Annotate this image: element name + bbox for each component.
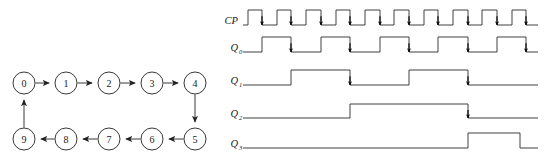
signal-label-Q3: Q [230, 138, 238, 149]
waveform-trace-CP [243, 10, 538, 25]
timing-diagram-canvas: CPQ0Q1Q2Q3 [215, 0, 544, 161]
waveform-row-Q0: Q0 [230, 37, 538, 55]
signal-label-Q0: Q [230, 42, 238, 53]
state-node-label: 7 [107, 134, 112, 145]
signal-subscript-Q1: 1 [239, 81, 242, 88]
state-node-3[interactable]: 3 [141, 72, 163, 94]
state-node-4[interactable]: 4 [184, 72, 206, 94]
waveform-row-Q1: Q1 [230, 70, 538, 88]
state-node-label: 2 [107, 78, 112, 89]
state-node-label: 6 [150, 134, 155, 145]
signal-label-CP: CP [225, 15, 239, 26]
state-node-label: 4 [193, 78, 198, 89]
signal-subscript-Q2: 2 [239, 114, 243, 121]
figure-root: 0123456789 CPQ0Q1Q2Q3 [0, 0, 544, 161]
signal-subscript-Q3: 3 [238, 144, 243, 151]
waveform-trace-Q3 [243, 133, 538, 148]
state-transition-diagram: 0123456789 [0, 0, 220, 161]
state-node-label: 5 [193, 134, 198, 145]
state-node-0[interactable]: 0 [13, 72, 35, 94]
signal-label-Q2: Q [230, 108, 238, 119]
waveform-trace-Q0 [243, 37, 538, 52]
state-node-label: 0 [22, 78, 27, 89]
waveform-row-Q3: Q3 [230, 133, 538, 151]
waveform-row-Q2: Q2 [230, 104, 538, 121]
state-node-label: 9 [22, 134, 27, 145]
state-diagram-canvas: 0123456789 [0, 0, 220, 161]
state-node-9[interactable]: 9 [13, 128, 35, 150]
signal-label-Q1: Q [230, 75, 238, 86]
signal-subscript-Q0: 0 [239, 48, 243, 55]
state-node-label: 8 [64, 134, 69, 145]
state-node-8[interactable]: 8 [55, 128, 77, 150]
waveform-trace-Q1 [243, 70, 538, 85]
state-node-1[interactable]: 1 [55, 72, 77, 94]
state-node-6[interactable]: 6 [141, 128, 163, 150]
state-node-label: 3 [150, 78, 155, 89]
timing-waveform-diagram: CPQ0Q1Q2Q3 [215, 0, 544, 161]
state-node-5[interactable]: 5 [184, 128, 206, 150]
state-node-label: 1 [64, 78, 69, 89]
waveform-row-CP: CP [225, 10, 538, 26]
node-layer: 0123456789 [13, 72, 206, 150]
state-node-7[interactable]: 7 [98, 128, 120, 150]
state-node-2[interactable]: 2 [98, 72, 120, 94]
waveform-trace-Q2 [243, 104, 538, 118]
